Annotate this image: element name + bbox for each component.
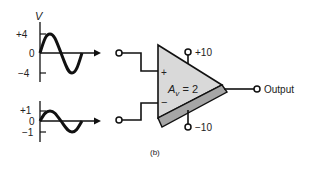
- top-tick-pos: +4: [16, 29, 28, 40]
- input-wiring: [116, 50, 158, 123]
- output-terminal: [254, 86, 260, 92]
- top-tick-zero: 0: [29, 48, 35, 59]
- op-amp: +10 −10 + − Av = 2: [158, 45, 227, 133]
- pos-supply-label: +10: [195, 47, 212, 58]
- bottom-axis-arrow-icon: [94, 118, 101, 125]
- neg-supply-label: −10: [195, 122, 212, 133]
- bottom-tick-zero: 0: [29, 116, 35, 127]
- figure-caption: (b): [150, 148, 160, 157]
- bottom-tick-neg: −1: [22, 127, 34, 138]
- noninverting-input-wire: [122, 53, 158, 71]
- bottom-tick-pos: +1: [20, 105, 32, 116]
- voltage-axis-label: V: [35, 10, 44, 22]
- top-axis-arrow-icon: [94, 50, 101, 57]
- plus-input-mark: +: [161, 67, 167, 78]
- top-input-graph: V +4 0 −4: [16, 10, 101, 82]
- output-stage: Output: [224, 84, 294, 95]
- top-tick-neg: −4: [18, 68, 30, 79]
- noninverting-input-terminal: [116, 50, 122, 56]
- minus-input-mark: −: [161, 96, 167, 108]
- output-label: Output: [264, 84, 294, 95]
- inverting-input-terminal: [116, 117, 122, 123]
- inverting-input-wire: [122, 103, 158, 120]
- pos-supply-terminal: [185, 49, 191, 55]
- neg-supply-terminal: [185, 124, 191, 130]
- bottom-input-graph: +1 0 −1: [20, 101, 101, 142]
- diff-amp-diagram: V +4 0 −4 +1 0 −1: [0, 0, 314, 170]
